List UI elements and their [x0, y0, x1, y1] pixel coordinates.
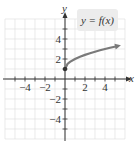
y-tick-label: 4 [56, 33, 62, 45]
x-axis-label: x [128, 72, 134, 84]
x-tick-label: 2 [82, 81, 88, 93]
y-tick-label: −4 [49, 113, 61, 125]
x-tick-label: −4 [19, 81, 31, 93]
y-tick-label: −2 [49, 93, 61, 105]
x-tick-label: 4 [102, 81, 108, 93]
function-label: y = f(x) [80, 14, 114, 27]
y-tick-label: 2 [56, 53, 62, 65]
x-tick-label: −2 [39, 81, 51, 93]
y-axis-label: y [61, 2, 67, 14]
start-point [63, 67, 67, 71]
function-curve [65, 46, 118, 69]
graph: −4−22442−2−4 y = f(x) y x [0, 0, 139, 144]
axes [3, 12, 132, 141]
